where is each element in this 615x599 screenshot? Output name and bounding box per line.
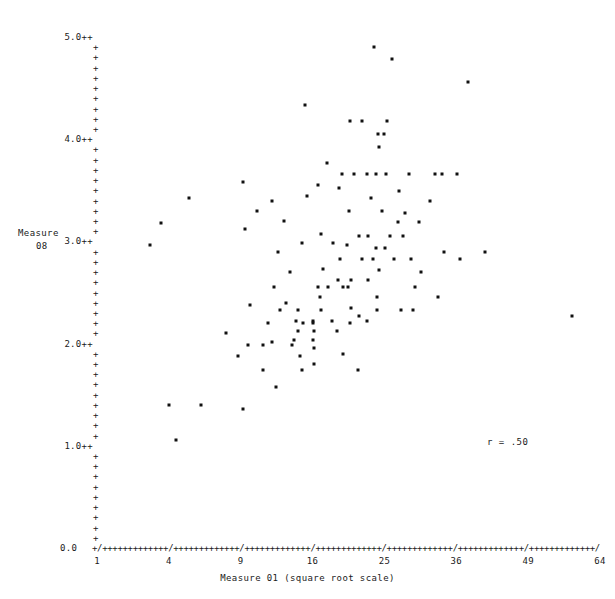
x-tick-label: 25 — [379, 556, 390, 566]
y-axis-tick: + — [0, 349, 140, 359]
data-point — [279, 308, 282, 311]
y-axis-tick: + — [0, 83, 140, 93]
y-axis-tick: + — [0, 523, 140, 533]
y-axis: +++++++++1.0+++++++++++2.0+++++++++++3.0… — [0, 0, 140, 599]
y-axis-glyph: + — [93, 226, 98, 236]
y-axis-tick: + — [0, 196, 140, 206]
data-point — [361, 119, 364, 122]
y-axis-tick: + — [0, 461, 140, 471]
y-axis-tick: + — [0, 400, 140, 410]
y-axis-tick: 4.0++ — [0, 134, 140, 144]
y-axis-tick: + — [0, 492, 140, 502]
x-axis-origin-label: 0.0 — [60, 543, 77, 553]
x-tick-label: 49 — [522, 556, 533, 566]
data-point — [375, 246, 378, 249]
data-point — [386, 119, 389, 122]
data-point — [266, 322, 269, 325]
data-point — [376, 133, 379, 136]
data-point — [291, 343, 294, 346]
y-axis-tick: + — [0, 104, 140, 114]
data-point — [396, 220, 399, 223]
x-axis-title: Measure 01 (square root scale) — [0, 573, 615, 583]
y-axis-tick: + — [0, 63, 140, 73]
y-axis-tick: 1.0++ — [0, 441, 140, 451]
data-point — [224, 332, 227, 335]
y-axis-tick: + — [0, 318, 140, 328]
data-point — [350, 279, 353, 282]
data-point — [304, 104, 307, 107]
y-axis-glyph: + — [93, 93, 98, 103]
data-point — [384, 172, 387, 175]
data-point — [347, 286, 350, 289]
x-axis-line: +/+++++++++++++/+++++++++++++/++++++++++… — [92, 543, 600, 553]
y-axis-tick: + — [0, 390, 140, 400]
data-point — [356, 369, 359, 372]
data-point — [350, 306, 353, 309]
y-axis-title-line2: 08 — [18, 240, 88, 253]
data-point — [337, 279, 340, 282]
y-tick-label: 2.0++ — [64, 339, 93, 349]
y-axis-tick: + — [0, 73, 140, 83]
data-point — [296, 308, 299, 311]
data-point — [571, 315, 574, 318]
data-point — [332, 242, 335, 245]
y-axis-glyph: + — [93, 420, 98, 430]
data-point — [148, 244, 151, 247]
scatter-plot-figure: +++++++++1.0+++++++++++2.0+++++++++++3.0… — [0, 0, 615, 599]
data-point — [347, 209, 350, 212]
x-tick-label: 9 — [238, 556, 244, 566]
data-point — [369, 197, 372, 200]
data-point — [335, 330, 338, 333]
data-point — [249, 303, 252, 306]
y-axis-glyph: + — [93, 277, 98, 287]
data-point — [296, 330, 299, 333]
data-point — [376, 308, 379, 311]
y-axis-glyph: + — [93, 124, 98, 134]
data-point — [342, 352, 345, 355]
x-tick-label: 16 — [307, 556, 318, 566]
data-point — [409, 257, 412, 260]
y-axis-glyph: + — [93, 461, 98, 471]
y-axis-tick: + — [0, 451, 140, 461]
data-point — [160, 222, 163, 225]
data-point — [318, 295, 321, 298]
data-point — [289, 271, 292, 274]
y-axis-glyph: + — [93, 144, 98, 154]
y-axis-tick: + — [0, 52, 140, 62]
y-axis-tick: + — [0, 359, 140, 369]
data-point — [401, 235, 404, 238]
y-axis-tick: + — [0, 288, 140, 298]
data-point — [294, 320, 297, 323]
y-axis-tick: + — [0, 369, 140, 379]
y-axis-glyph: + — [93, 83, 98, 93]
data-point — [458, 257, 461, 260]
data-point — [167, 403, 170, 406]
y-axis-glyph: + — [93, 196, 98, 206]
y-axis-tick: + — [0, 267, 140, 277]
data-point — [244, 228, 247, 231]
data-point — [375, 172, 378, 175]
y-axis-glyph: + — [93, 104, 98, 114]
data-point — [404, 211, 407, 214]
data-point — [342, 286, 345, 289]
y-axis-tick: + — [0, 206, 140, 216]
data-point — [174, 438, 177, 441]
data-point — [412, 308, 415, 311]
data-point — [377, 146, 380, 149]
data-point — [200, 403, 203, 406]
data-point — [320, 308, 323, 311]
y-axis-tick: 2.0++ — [0, 339, 140, 349]
data-point — [313, 330, 316, 333]
data-point — [255, 209, 258, 212]
data-point — [400, 308, 403, 311]
data-point — [300, 242, 303, 245]
y-axis-glyph: + — [93, 165, 98, 175]
y-axis-glyph: + — [93, 114, 98, 124]
data-point — [327, 286, 330, 289]
data-point — [242, 181, 245, 184]
data-point — [467, 80, 470, 83]
data-point — [367, 279, 370, 282]
data-point — [311, 322, 314, 325]
y-axis-tick: + — [0, 482, 140, 492]
y-axis-tick: + — [0, 298, 140, 308]
